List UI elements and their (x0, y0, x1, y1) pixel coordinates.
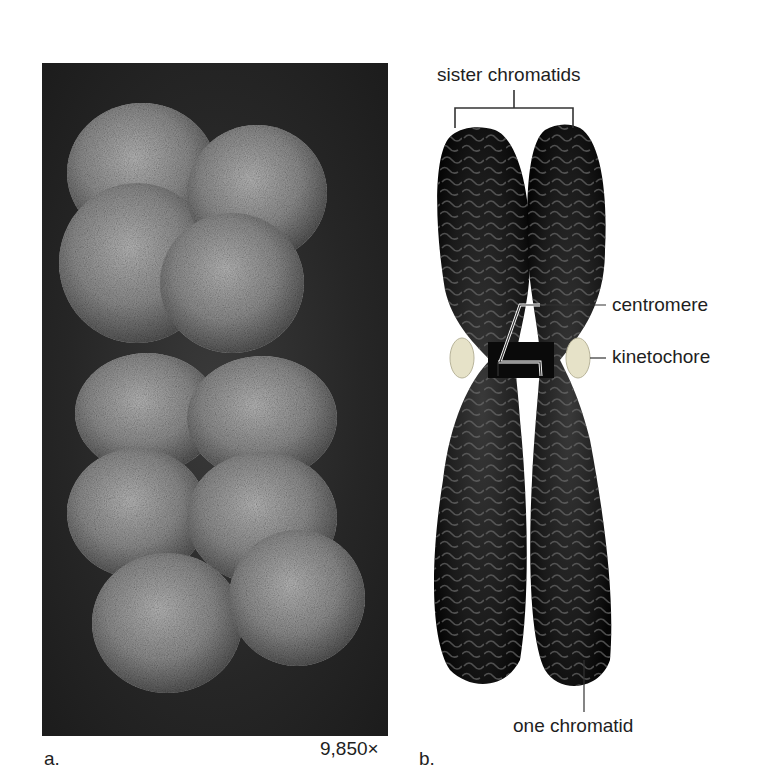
chromosome-illustration (0, 0, 759, 781)
kinetochore-left (450, 338, 474, 378)
panel-b-label: b. (419, 748, 435, 770)
left-sister-chromatid (434, 127, 530, 684)
one-chromatid-label: one chromatid (513, 715, 633, 737)
centromere-label: centromere (612, 294, 708, 316)
right-sister-chromatid (527, 124, 611, 686)
sister-chromatids-bracket (455, 90, 573, 128)
sister-chromatids-label: sister chromatids (437, 64, 581, 86)
kinetochore-right (566, 338, 590, 378)
kinetochore-label: kinetochore (612, 346, 710, 368)
